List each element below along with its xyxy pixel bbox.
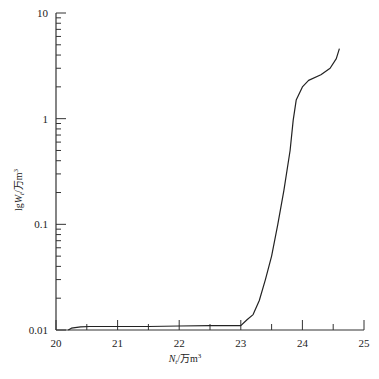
y-tick-label: 10 — [37, 7, 49, 19]
chart: 0.010.1110 202122232425 Nt/万m3 lgWt/万m3 — [0, 0, 379, 379]
x-tick-label: 20 — [51, 337, 63, 349]
x-tick-label: 24 — [297, 337, 309, 349]
x-tick-label: 21 — [112, 337, 123, 349]
y-tick-label: 1 — [43, 113, 49, 125]
data-line — [68, 49, 339, 330]
y-tick-label: 0.1 — [34, 218, 48, 230]
series-layer — [68, 49, 339, 330]
y-tick-label: 0.01 — [29, 324, 48, 336]
y-axis: 0.010.1110 — [29, 7, 66, 336]
x-tick-label: 22 — [174, 337, 185, 349]
x-axis-title: Nt/万m3 — [168, 352, 202, 366]
y-axis-title: lgWt/万m3 — [12, 168, 26, 211]
x-tick-label: 23 — [235, 337, 247, 349]
x-axis: 202122232425 — [51, 320, 371, 349]
x-tick-label: 25 — [359, 337, 371, 349]
